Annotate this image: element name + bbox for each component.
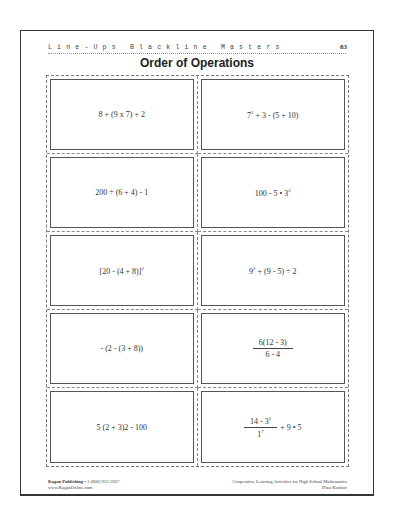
expression-tail: + 9 • 5 xyxy=(280,423,301,432)
problem-card-7: - (2 - (3 + 8)) xyxy=(50,313,194,384)
card-cell: 92 + (9 - 5) ÷ 2 xyxy=(198,232,349,310)
expression: 100 - 5 • 32 xyxy=(255,188,291,198)
publisher-phone: • 1 (800) 933-2667 xyxy=(83,479,119,484)
problem-card-5: [20 - (4 + 8)]2 xyxy=(50,235,194,306)
book-author: Dina Kushnir xyxy=(322,485,347,490)
problem-card-4: 100 - 5 • 32 xyxy=(201,157,346,228)
card-cell: 200 ÷ (6 + 4) - 1 xyxy=(47,154,198,232)
expression: 5 (2 + 3)2 - 100 xyxy=(96,423,147,432)
expression: - (2 - (3 + 8)) xyxy=(101,344,144,353)
fraction: 14 - 32 17 xyxy=(244,416,277,438)
card-cell: 72 + 3 - (5 + 10) xyxy=(198,76,349,154)
header-rule xyxy=(48,53,346,54)
denominator: 17 xyxy=(257,428,264,439)
card-cell: - (2 - (3 + 8)) xyxy=(47,310,198,388)
card-cell: 5 (2 + 3)2 - 100 xyxy=(47,388,198,466)
footer-publisher: Kagan Publishing • 1 (800) 933-2667 www.… xyxy=(48,479,119,491)
numerator: 14 - 32 xyxy=(244,416,277,428)
expression: 200 ÷ (6 + 4) - 1 xyxy=(95,188,148,197)
card-cell: 6(12 - 3) 6 - 4 xyxy=(198,310,349,388)
problem-card-1: 8 + (9 x 7) + 2 xyxy=(50,79,194,150)
problem-card-2: 72 + 3 - (5 + 10) xyxy=(201,79,346,150)
denominator: 6 - 4 xyxy=(265,349,280,359)
problem-card-10: 14 - 32 17 + 9 • 5 xyxy=(201,391,346,463)
book-title: Cooperative Learning Activities for High… xyxy=(232,479,347,484)
problem-card-6: 92 + (9 - 5) ÷ 2 xyxy=(201,235,346,306)
numerator: 6(12 - 3) xyxy=(253,338,293,349)
page-number: 83 xyxy=(340,43,347,51)
problem-card-3: 200 ÷ (6 + 4) - 1 xyxy=(50,157,194,228)
publisher-name: Kagan Publishing xyxy=(48,479,83,484)
fraction: 6(12 - 3) 6 - 4 xyxy=(253,338,293,359)
problem-card-8: 6(12 - 3) 6 - 4 xyxy=(201,313,346,384)
card-cell: 100 - 5 • 32 xyxy=(198,154,349,232)
footer-book-info: Cooperative Learning Activities for High… xyxy=(232,479,347,491)
expression: 92 + (9 - 5) ÷ 2 xyxy=(249,266,296,276)
expression: 72 + 3 - (5 + 10) xyxy=(247,110,299,120)
card-cell: 14 - 32 17 + 9 • 5 xyxy=(198,388,349,466)
expression: 8 + (9 x 7) + 2 xyxy=(99,110,145,119)
card-cell: 8 + (9 x 7) + 2 xyxy=(47,76,198,154)
card-cell: [20 - (4 + 8)]2 xyxy=(47,232,198,310)
card-grid: 8 + (9 x 7) + 2 72 + 3 - (5 + 10) 200 ÷ … xyxy=(46,75,349,467)
publisher-website: www.KaganOnline.com xyxy=(48,485,92,490)
problem-card-9: 5 (2 + 3)2 - 100 xyxy=(50,391,194,463)
page-title: Order of Operations xyxy=(0,56,394,70)
series-header: Line-Ups Blackline Masters xyxy=(48,44,285,51)
expression: [20 - (4 + 8)]2 xyxy=(100,266,144,276)
